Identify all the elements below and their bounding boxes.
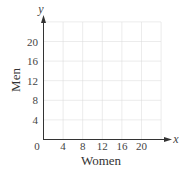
- x-tick-label: 16: [116, 140, 128, 152]
- x-tick-label: 4: [60, 140, 66, 152]
- y-axis-symbol: y: [37, 2, 44, 16]
- grid-lines: [44, 22, 162, 140]
- y-axis-arrow-icon: [41, 15, 46, 23]
- y-tick-label: 20: [27, 36, 39, 48]
- y-tick-label: 4: [33, 114, 39, 126]
- x-tick-label: 20: [136, 140, 148, 152]
- y-tick-label: 8: [33, 94, 39, 106]
- y-tick-label: 12: [27, 75, 38, 87]
- chart-plot: 48121620 48121620 0 x y Women Men: [0, 0, 181, 178]
- x-tick-label: 8: [80, 140, 86, 152]
- y-axis-label: Men: [8, 68, 23, 92]
- x-axis-symbol: x: [172, 132, 179, 146]
- x-tick-labels: 48121620: [60, 140, 147, 152]
- origin-label: 0: [34, 140, 40, 152]
- x-tick-label: 12: [97, 140, 108, 152]
- x-axis-label: Women: [81, 153, 122, 168]
- y-tick-labels: 48121620: [27, 36, 39, 126]
- x-axis-arrow-icon: [164, 137, 172, 142]
- axes: [41, 15, 172, 142]
- y-tick-label: 16: [27, 55, 39, 67]
